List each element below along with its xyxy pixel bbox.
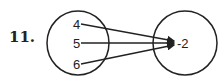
- arrow-4-to-neg2: [81, 24, 174, 41]
- arrow-6-to-neg2: [81, 45, 174, 64]
- domain-value-5: 5: [73, 36, 80, 51]
- domain-value-6: 6: [73, 57, 80, 72]
- range-value-neg2: -2: [177, 36, 189, 51]
- domain-value-4: 4: [73, 17, 80, 32]
- mapping-diagram: 4 5 6 -2: [0, 0, 222, 81]
